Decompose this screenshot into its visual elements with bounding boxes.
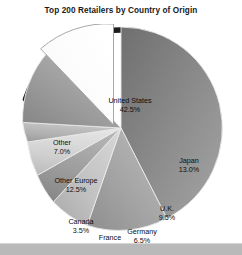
bottom-bar <box>0 243 242 255</box>
pie-chart-figure: Top 200 Retailers by Country of Origin <box>0 0 242 255</box>
pie-plot-area: United States 42.5% Japan 13.0% U.K. 9.5… <box>14 24 228 232</box>
slice-label-name: France <box>91 233 129 242</box>
chart-title: Top 200 Retailers by Country of Origin <box>0 6 242 15</box>
pie-svg <box>14 24 228 232</box>
